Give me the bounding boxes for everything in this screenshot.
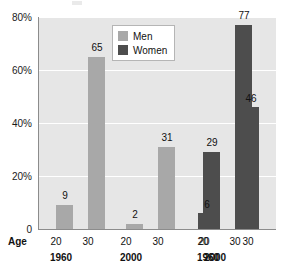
x-tick-women-2000-age20-final: 20: [193, 236, 215, 247]
legend-label-women: Women: [133, 45, 167, 56]
legend-item-men[interactable]: Men: [118, 29, 167, 43]
legend: Men Women: [112, 25, 175, 61]
y-tick-60: 60%: [0, 66, 32, 76]
y-axis-line: [38, 17, 39, 230]
y-tick-80: 80%: [0, 13, 32, 23]
y-tick-20: 20%: [0, 172, 32, 182]
x-tick-men-2000-age30: 30: [147, 236, 169, 247]
top-crop-artifact: [72, 1, 82, 5]
x-group-label-men-2000: 2000: [108, 252, 154, 263]
bar-chart: 9 65 2 31 29 77 6 46 80% 60% 40% 20% 0: [0, 0, 284, 274]
x-group-label-women-2000-final: 2000: [192, 252, 238, 263]
legend-label-men: Men: [133, 31, 152, 42]
bar-women-2000-age30-final[interactable]: [242, 107, 259, 229]
x-axis-baseline: [38, 229, 276, 230]
bar-value-women-2000-age20: 6: [192, 200, 222, 210]
bar-women-2000-age20-final[interactable]: [198, 213, 215, 229]
x-tick-women-2000-age30-final: 30: [237, 236, 259, 247]
legend-item-women[interactable]: Women: [118, 43, 167, 57]
legend-swatch-women-icon: [118, 45, 128, 55]
x-tick-men-1960-age30: 30: [77, 236, 99, 247]
legend-swatch-men-icon: [118, 31, 128, 41]
y-tick-40: 40%: [0, 119, 32, 129]
x-tick-men-1960-age20: 20: [45, 236, 67, 247]
x-group-label-men-1960: 1960: [38, 252, 84, 263]
bar-value-women-2000-age30: 46: [236, 94, 266, 104]
axis-label-age: Age: [8, 236, 27, 247]
x-tick-men-2000-age20: 20: [115, 236, 137, 247]
